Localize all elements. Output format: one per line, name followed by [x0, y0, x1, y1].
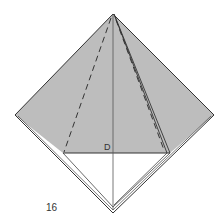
origami-diagram — [0, 0, 224, 224]
lower-left-flap — [63, 153, 113, 207]
lower-right-flap-1 — [113, 153, 170, 207]
lower-right-flap-2 — [114, 153, 167, 205]
point-label-d: D — [104, 142, 111, 152]
step-number: 16 — [46, 202, 57, 213]
folded-paper-gray — [15, 14, 214, 153]
